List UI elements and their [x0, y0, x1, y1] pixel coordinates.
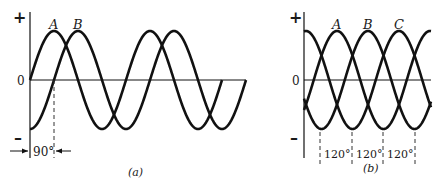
phase-diagram: 90° + 0 – A B (a) 120° 120° 120° + 0 – A…	[0, 0, 437, 187]
wave-label-b-b: B	[362, 17, 373, 32]
wave-label-a: A	[48, 17, 58, 32]
zero-label-a: 0	[17, 74, 25, 88]
wave-label-b-a: A	[331, 17, 341, 32]
zero-label-b: 0	[292, 74, 300, 88]
phase-angle-label-a: 90°	[33, 145, 54, 159]
minus-label-b: –	[290, 129, 298, 148]
phase-angle-label-b3: 120°	[387, 148, 414, 161]
wave-label-b: B	[72, 17, 83, 32]
minus-label-a: –	[14, 129, 22, 148]
panel-a: 90° + 0 – A B (a)	[10, 8, 246, 179]
phase-angle-label-b1: 120°	[324, 148, 351, 161]
plus-label-b: +	[289, 8, 302, 27]
arrowhead-left-icon	[56, 149, 62, 154]
wave-label-b-c: C	[394, 17, 404, 32]
phase-angle-label-b2: 120°	[356, 148, 383, 161]
plus-label-a: +	[13, 8, 26, 27]
arrowhead-right-icon	[22, 149, 28, 154]
caption-a: (a)	[128, 166, 143, 179]
panel-b: 120° 120° 120° + 0 – A B C (b)	[289, 8, 431, 175]
caption-b: (b)	[363, 162, 379, 175]
